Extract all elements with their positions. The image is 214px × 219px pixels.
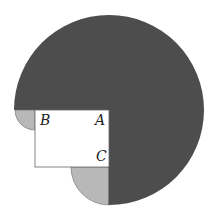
quarter-circle-b <box>15 110 35 130</box>
quarter-circle-c <box>71 167 109 205</box>
label-b: B <box>39 112 50 128</box>
geometry-diagram: B A C <box>0 0 214 219</box>
label-a: A <box>93 112 105 128</box>
label-c: C <box>96 148 107 164</box>
